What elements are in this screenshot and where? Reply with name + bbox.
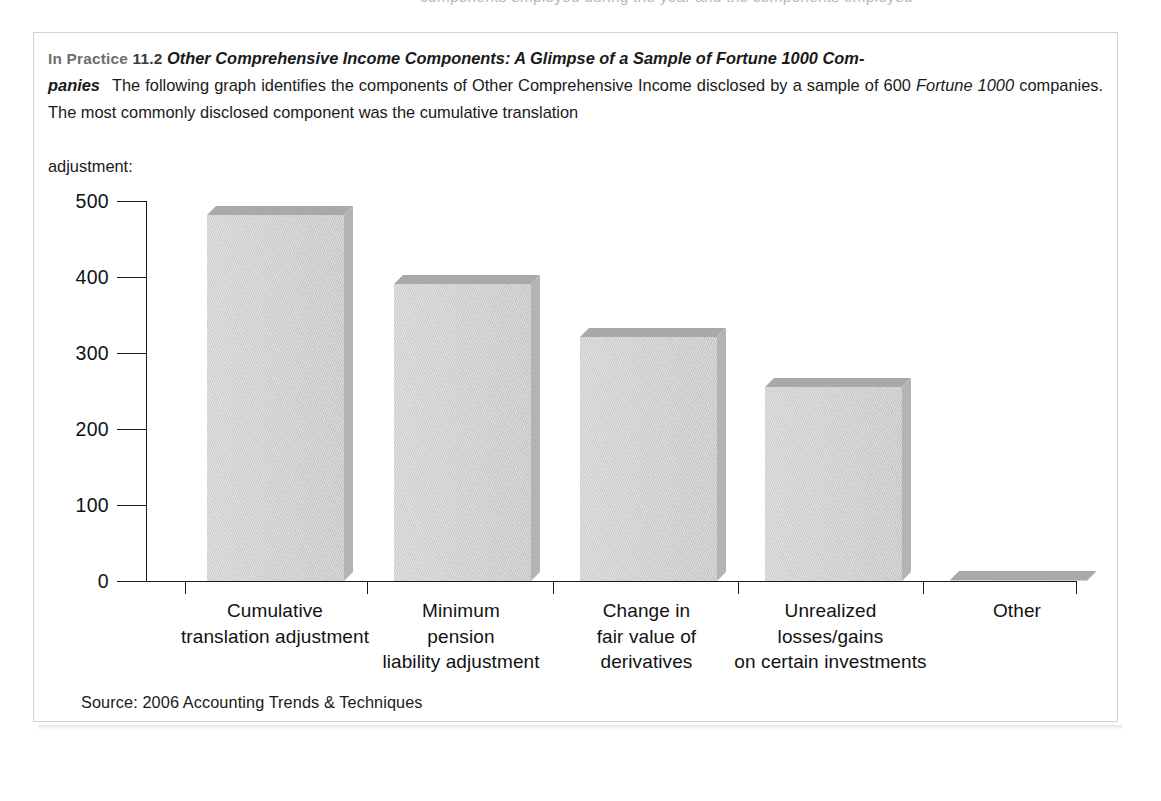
bar-side-face	[902, 378, 911, 581]
bar-other	[950, 571, 1087, 581]
bar-top-face	[950, 571, 1096, 580]
panel-headline: Other Comprehensive Income Components: A…	[167, 49, 864, 67]
y-tick-label-0: 0	[39, 570, 109, 593]
x-category-line: translation adjustment	[175, 624, 375, 650]
bar-top-face	[207, 206, 353, 215]
y-tick-0	[117, 581, 146, 582]
y-axis-line	[146, 201, 147, 582]
x-category-line: Unrealized	[713, 598, 948, 624]
x-axis-line	[117, 581, 1077, 582]
bar-change-in-fair-value-of-derivatives	[580, 328, 717, 581]
cut-off-text: components employed during the year and …	[420, 0, 913, 6]
x-tick-2	[553, 582, 554, 594]
in-practice-number: 11.2	[133, 50, 163, 67]
x-category-line: Cumulative	[175, 598, 375, 624]
bar-front-face	[950, 580, 1087, 581]
bar-top-face	[765, 378, 911, 387]
x-category-line: losses/gains	[713, 624, 948, 650]
bar-front-face	[394, 284, 531, 581]
y-tick-label-400: 400	[39, 266, 109, 289]
in-practice-panel: In Practice 11.2 Other Comprehensive Inc…	[33, 32, 1118, 722]
y-tick-label-300: 300	[39, 342, 109, 365]
bar-front-face	[580, 337, 717, 581]
bar-unrealized-losses-gains-on-certain-investments	[765, 378, 902, 581]
bar-side-face	[717, 328, 726, 581]
x-category-line: pension	[362, 624, 560, 650]
x-category-line: Minimum	[362, 598, 560, 624]
bar-front-face	[765, 387, 902, 581]
bar-cumulative-translation-adjustment	[207, 206, 344, 581]
bar-front-face	[207, 215, 344, 581]
x-category-line: on certain investments	[713, 649, 948, 675]
x-tick-0	[185, 582, 186, 594]
bar-top-face	[394, 275, 540, 284]
x-category-label-unrealized-losses-gains-on-certain-investments: Unrealized losses/gains on certain inves…	[713, 598, 948, 675]
y-tick-400	[117, 277, 146, 278]
x-category-label-minimum-pension-liability-adjustment: Minimum pension liability adjustment	[362, 598, 560, 675]
panel-intro-paragraph: In Practice 11.2 Other Comprehensive Inc…	[48, 45, 1103, 126]
panel-body-part1: The following graph identifies the compo…	[112, 76, 916, 94]
bar-top-face	[580, 328, 726, 337]
x-category-line: Other	[932, 598, 1102, 624]
panel-drop-shadow	[38, 725, 1123, 730]
oci-components-bar-chart: 500 400 300 200 100 0	[34, 163, 1117, 663]
y-tick-label-500: 500	[39, 190, 109, 213]
panel-body-italic: Fortune 1000	[916, 76, 1014, 94]
bar-minimum-pension-liability-adjustment	[394, 275, 531, 581]
cut-off-text-strip: components employed during the year and …	[0, 0, 1161, 12]
x-tick-1	[367, 582, 368, 594]
panel-headline-continued: panies	[48, 76, 100, 94]
x-category-line: liability adjustment	[362, 649, 560, 675]
x-tick-4	[923, 582, 924, 594]
bar-side-face	[344, 206, 353, 581]
chart-source-note: Source: 2006 Accounting Trends & Techniq…	[81, 693, 423, 712]
bar-side-face	[531, 275, 540, 581]
x-category-label-cumulative-translation-adjustment: Cumulative translation adjustment	[175, 598, 375, 649]
y-tick-300	[117, 353, 146, 354]
y-tick-500	[117, 201, 146, 202]
x-tick-3	[738, 582, 739, 594]
y-tick-100	[117, 505, 146, 506]
in-practice-label: In Practice 11.2	[48, 50, 162, 67]
y-tick-200	[117, 429, 146, 430]
x-category-label-other: Other	[932, 598, 1102, 624]
y-tick-label-200: 200	[39, 418, 109, 441]
y-tick-label-100: 100	[39, 494, 109, 517]
x-tick-5	[1076, 582, 1077, 594]
